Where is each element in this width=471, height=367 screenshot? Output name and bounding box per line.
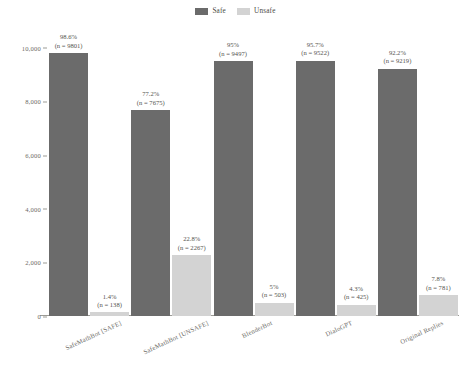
bar-unsafe[interactable]: 5%(n = 503) [255, 303, 294, 316]
bar-percent-label: 1.4% [103, 293, 117, 300]
bar-group: 77.2%(n = 7675)22.8%(n = 2267) [130, 37, 212, 316]
bar-unsafe[interactable]: 7.8%(n = 781) [419, 295, 458, 316]
bar-group: 95%(n = 9497)5%(n = 503) [212, 37, 294, 316]
bar-percent-label: 7.8% [432, 275, 446, 282]
bar-value-label: 4.3%(n = 425) [344, 285, 369, 302]
bar-percent-label: 95% [227, 41, 239, 48]
bar-value-label: 22.8%(n = 2267) [178, 235, 206, 252]
x-axis-label-cell: Original Replies [377, 316, 459, 367]
bar-percent-label: 95.7% [307, 41, 324, 48]
x-axis-tick-label: DialoGPT [324, 319, 353, 337]
bar-safe[interactable]: 98.6%(n = 9801) [49, 53, 88, 316]
legend-label-safe: Safe [212, 7, 226, 15]
bar-count-label: (n = 9801) [55, 42, 83, 49]
bar-count-label: (n = 425) [344, 293, 369, 300]
y-axis-tick-label: 10,000 [22, 44, 48, 51]
y-axis-tick-label: 6,000 [25, 152, 48, 159]
bar-value-label: 7.8%(n = 781) [426, 275, 451, 292]
bar-unsafe[interactable]: 22.8%(n = 2267) [172, 255, 211, 316]
x-axis-label-cell: DialoGPT [295, 316, 377, 367]
y-axis-tick-label: 2,000 [25, 259, 48, 266]
bar-count-label: (n = 9219) [383, 57, 411, 64]
y-axis-tick-label: 4,000 [25, 205, 48, 212]
bar-percent-label: 98.6% [60, 33, 77, 40]
bar-safe[interactable]: 77.2%(n = 7675) [131, 110, 170, 316]
bar-groups: 98.6%(n = 9801)1.4%(n = 138)77.2%(n = 76… [48, 37, 459, 316]
bar-percent-label: 22.8% [183, 235, 200, 242]
chart-legend: Safe Unsafe [0, 7, 471, 15]
bar-count-label: (n = 9522) [301, 49, 329, 56]
bar-count-label: (n = 503) [262, 291, 287, 298]
bar-count-label: (n = 781) [426, 284, 451, 291]
grouped-bar-chart: Safe Unsafe 02,0004,0006,0008,00010,000 … [0, 0, 471, 367]
bar-count-label: (n = 7675) [137, 99, 165, 106]
bar-count-label: (n = 2267) [178, 244, 206, 251]
bar-percent-label: 5% [270, 283, 279, 290]
bar-value-label: 5%(n = 503) [262, 283, 287, 300]
bar-group: 98.6%(n = 9801)1.4%(n = 138) [48, 37, 130, 316]
bar-value-label: 98.6%(n = 9801) [55, 33, 83, 50]
x-axis-label-cell: BlenderBot [212, 316, 294, 367]
bar-value-label: 1.4%(n = 138) [97, 293, 122, 310]
bar-unsafe[interactable]: 4.3%(n = 425) [337, 305, 376, 316]
legend-swatch-safe [195, 8, 208, 15]
x-axis-label-cell: SafeMathBot [UNSAFE] [130, 316, 212, 367]
bar-group: 92.2%(n = 9219)7.8%(n = 781) [377, 37, 459, 316]
legend-label-unsafe: Unsafe [254, 7, 276, 15]
bar-group: 95.7%(n = 9522)4.3%(n = 425) [295, 37, 377, 316]
x-axis-tick-label: SafeMathBot [SAFE] [64, 319, 122, 351]
bar-percent-label: 4.3% [349, 285, 363, 292]
bar-safe[interactable]: 95%(n = 9497) [214, 61, 253, 316]
y-axis-tick-label: 0 [38, 313, 49, 320]
x-axis-label-cell: SafeMathBot [SAFE] [48, 316, 130, 367]
x-axis-labels: SafeMathBot [SAFE]SafeMathBot [UNSAFE]Bl… [48, 316, 459, 367]
bar-value-label: 92.2%(n = 9219) [383, 49, 411, 66]
legend-item-safe[interactable]: Safe [195, 7, 226, 15]
bar-value-label: 77.2%(n = 7675) [137, 90, 165, 107]
bar-count-label: (n = 138) [97, 301, 122, 308]
x-axis-tick-label: Original Replies [399, 319, 444, 345]
bar-safe[interactable]: 92.2%(n = 9219) [378, 69, 417, 316]
plot-area: 02,0004,0006,0008,00010,000 98.6%(n = 98… [48, 37, 459, 316]
bar-percent-label: 77.2% [142, 90, 159, 97]
bar-count-label: (n = 9497) [219, 50, 247, 57]
bar-value-label: 95.7%(n = 9522) [301, 41, 329, 58]
y-axis-tick-label: 8,000 [25, 98, 48, 105]
x-axis-tick-label: BlenderBot [240, 319, 272, 339]
bar-value-label: 95%(n = 9497) [219, 41, 247, 58]
legend-item-unsafe[interactable]: Unsafe [237, 7, 276, 15]
x-axis-tick-label: SafeMathBot [UNSAFE] [143, 319, 210, 355]
legend-swatch-unsafe [237, 8, 250, 15]
bar-safe[interactable]: 95.7%(n = 9522) [296, 61, 335, 316]
bar-percent-label: 92.2% [389, 49, 406, 56]
